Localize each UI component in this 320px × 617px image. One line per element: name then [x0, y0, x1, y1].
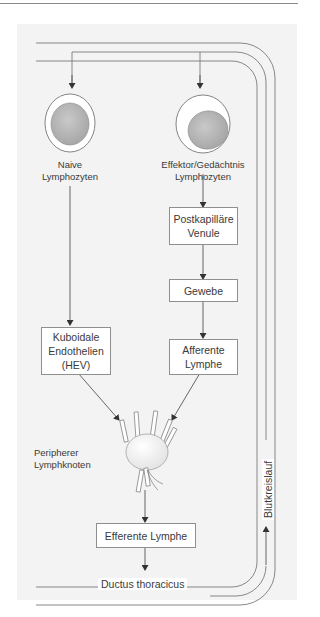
vessel-flow-line [72, 52, 266, 596]
arrow-hev-to-node [78, 373, 119, 420]
box-label: Gewebe [184, 284, 223, 298]
postkapillaere-venule-box: Postkapilläre Venule [169, 207, 238, 245]
label-line: Effektor/Gedächtnis [148, 159, 258, 171]
label-line: Lymphozyten [30, 171, 110, 183]
lymph-node-label: Peripherer Lymphknoten [34, 447, 104, 470]
box-label: Postkapilläre Venule [173, 212, 233, 240]
efferente-lymphe-box: Efferente Lymphe [96, 523, 196, 548]
box-label: Kuboidale Endothelien (HEV) [48, 330, 103, 372]
kuboidale-endothelien-box: Kuboidale Endothelien (HEV) [41, 327, 111, 375]
ductus-thoracicus-label: Ductus thoracicus [98, 578, 187, 590]
naive-lymphocytes-label: Naive Lymphozyten [30, 159, 110, 182]
label-line: Lymphknoten [34, 459, 104, 471]
label-line: Peripherer [34, 447, 104, 459]
blutkreislauf-label: Blutkreislauf [262, 459, 274, 520]
effector-lymphocyte-cell [176, 95, 233, 155]
label-line: Lymphozyten [148, 171, 258, 183]
afferente-lymphe-box: Afferente Lymphe [169, 339, 238, 375]
effector-lymphocytes-label: Effektor/Gedächtnis Lymphozyten [148, 159, 258, 182]
box-label: Afferente Lymphe [182, 343, 224, 371]
lymph-node-icon [120, 411, 177, 492]
box-label: Efferente Lymphe [105, 529, 187, 543]
gewebe-box: Gewebe [169, 279, 238, 302]
label-line: Naive [30, 159, 110, 171]
arrow-afferent-to-node [172, 373, 200, 420]
naive-lymphocyte-cell [45, 94, 95, 152]
